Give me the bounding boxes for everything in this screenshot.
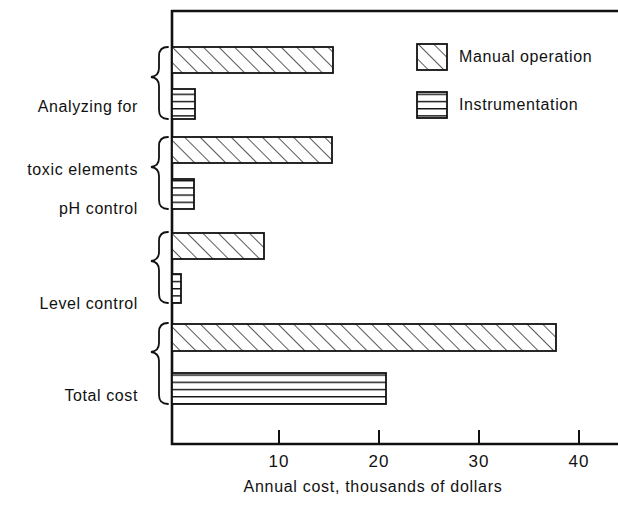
bar-manual-analyzing xyxy=(172,47,333,73)
legend-swatch-instrumentation xyxy=(417,92,447,118)
bar-manual-level-control xyxy=(172,233,264,259)
legend-label-instrumentation: Instrumentation xyxy=(459,96,578,114)
category-braces xyxy=(151,47,168,404)
legend-label-manual-operation: Manual operation xyxy=(459,48,592,66)
x-tick-label-10: 10 xyxy=(259,452,299,472)
legend-swatch-manual-operation xyxy=(417,44,447,70)
legend-swatches xyxy=(417,44,447,118)
bar-manual-ph-control xyxy=(172,137,332,163)
category-label-ph-control: pH control xyxy=(0,156,138,261)
bar-instrumentation-level-control xyxy=(172,274,181,303)
brace-level xyxy=(151,232,168,303)
bar-group-level-control xyxy=(172,233,264,303)
bar-group-ph-control xyxy=(172,137,332,209)
category-label-total-cost-line1: Total cost xyxy=(0,385,138,406)
figure-bar-chart-annual-cost: Analyzing for toxic elements pH control … xyxy=(0,0,618,508)
brace-analyzing xyxy=(151,47,168,119)
bar-group-analyzing xyxy=(172,47,333,119)
x-axis-title: Annual cost, thousands of dollars xyxy=(173,478,573,496)
category-label-total-cost: Total cost xyxy=(0,343,138,448)
category-label-level-control-line1: Level control xyxy=(0,293,138,314)
x-tick-label-20: 20 xyxy=(359,452,399,472)
brace-total xyxy=(151,323,168,404)
category-label-level-control: Level control xyxy=(0,251,138,356)
category-label-ph-control-line1: pH control xyxy=(0,198,138,219)
brace-ph xyxy=(151,137,168,209)
x-tick-label-30: 30 xyxy=(459,452,499,472)
category-label-analyzing-line1: Analyzing for xyxy=(0,96,138,117)
bar-group-total-cost xyxy=(172,324,556,404)
bar-instrumentation-total-cost xyxy=(172,373,386,404)
bar-instrumentation-analyzing xyxy=(172,89,195,119)
x-axis-ticks xyxy=(279,430,579,444)
x-tick-label-40: 40 xyxy=(559,452,599,472)
bar-instrumentation-ph-control xyxy=(172,179,194,209)
bar-manual-total-cost xyxy=(172,324,556,351)
